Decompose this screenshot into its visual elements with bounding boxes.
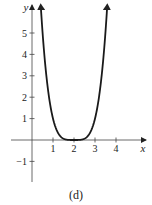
y-tick-label: 4 [22, 49, 27, 60]
curve-left-branch [41, 7, 74, 140]
graph-figure: 1234−112345xy [0, 0, 152, 205]
data-curve [41, 7, 107, 140]
x-tick-label: 1 [51, 143, 56, 154]
curve-right-branch [74, 7, 107, 140]
figure-caption: (d) [0, 188, 152, 203]
y-tick-label: 1 [22, 113, 27, 124]
axes: 1234−112345xy [11, 1, 146, 182]
y-tick-label: 3 [22, 70, 27, 81]
x-tick-label: 3 [93, 143, 98, 154]
x-axis-label: x [140, 142, 146, 154]
y-tick-label: 2 [22, 92, 27, 103]
y-axis-label: y [23, 1, 29, 13]
y-tick-label: −1 [16, 156, 27, 167]
x-tick-label: 4 [114, 143, 119, 154]
x-tick-label: 2 [72, 143, 77, 154]
y-tick-label: 5 [22, 28, 27, 39]
